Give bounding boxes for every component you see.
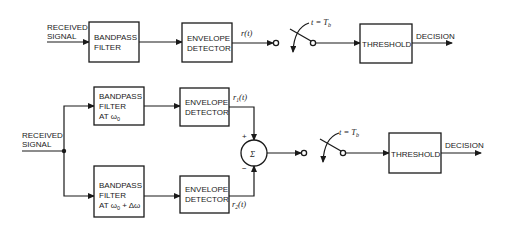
r1-label: r1(t) — [233, 92, 247, 103]
top-received-signal-label-1: RECEIVED — [47, 23, 88, 32]
bottom-threshold-label: THRESHOLD — [391, 150, 441, 159]
upper-env-label-1: ENVELOPE — [185, 98, 228, 107]
receiver-block-diagram: RECEIVED SIGNAL BANDPASS FILTER ENVELOPE… — [0, 0, 508, 234]
top-switch-motion-arrow-icon — [293, 23, 309, 52]
top-bandpass-filter-box — [89, 22, 139, 62]
bottom-switch-time-label: t = Tb — [339, 127, 359, 138]
top-received-signal-label-2: SIGNAL — [47, 32, 77, 41]
minus-sign: − — [242, 164, 247, 173]
bottom-received-signal-label-2: SIGNAL — [22, 140, 52, 149]
bottom-decision-label: DECISION — [445, 141, 484, 150]
bottom-received-signal-label-1: RECEIVED — [22, 131, 63, 140]
top-bpf-label-2: FILTER — [94, 43, 121, 52]
upper-envelope-detector-box — [180, 88, 229, 126]
top-switch-blade — [290, 29, 311, 41]
top-output-signal-label: r(t) — [241, 28, 253, 38]
top-threshold-label: THRESHOLD — [362, 40, 412, 49]
top-switch-pivot-icon — [310, 40, 315, 45]
top-switch-contact-icon — [273, 40, 278, 45]
r2-label: r2(t) — [232, 199, 246, 210]
upper-bpf-label-2: FILTER — [99, 102, 126, 111]
bottom-system: RECEIVED SIGNAL BANDPASS FILTER AT ω0 EN… — [22, 87, 484, 217]
lower-bpf-label-1: BANDPASS — [99, 181, 142, 190]
top-decision-label: DECISION — [416, 32, 455, 41]
lower-env-label-2: DETECTOR — [185, 195, 229, 204]
bottom-switch-blade — [320, 139, 341, 151]
upper-bpf-label-1: BANDPASS — [99, 92, 142, 101]
top-bpf-label-1: BANDPASS — [94, 33, 137, 42]
bottom-switch-motion-arrow-icon — [323, 133, 339, 162]
top-switch-time-label: t = Tb — [311, 17, 331, 28]
lower-env-label-1: ENVELOPE — [185, 185, 228, 194]
sigma-icon: Σ — [249, 149, 255, 159]
upper-bpf-label-3: AT ω0 — [99, 112, 120, 122]
upper-env-label-2: DETECTOR — [185, 108, 229, 117]
bottom-switch-pivot-icon — [340, 150, 345, 155]
top-system: RECEIVED SIGNAL BANDPASS FILTER ENVELOPE… — [47, 17, 455, 63]
lower-branch-arrow — [64, 151, 94, 196]
upper-branch-arrow — [64, 106, 94, 151]
lower-bpf-label-2: FILTER — [99, 191, 126, 200]
plus-sign: + — [242, 132, 247, 141]
top-env-label-2: DETECTOR — [187, 44, 231, 53]
bottom-switch-contact-icon — [301, 150, 306, 155]
top-env-label-1: ENVELOPE — [187, 34, 230, 43]
lower-bpf-label-3: AT ω0 + Δω — [99, 201, 140, 211]
